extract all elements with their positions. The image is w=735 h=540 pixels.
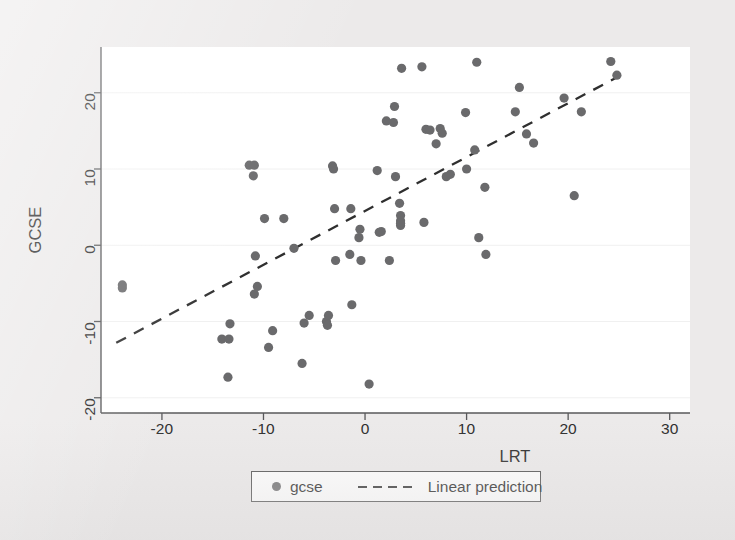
y-tick-label: 20 [81, 93, 99, 110]
axis-lines [101, 47, 690, 413]
y-tick-label: 0 [81, 245, 99, 254]
y-tick-label: -10 [81, 322, 99, 345]
y-tick-label: -20 [81, 398, 99, 421]
legend-dashed-line-icon [357, 482, 419, 492]
legend-box: gcse Linear prediction [251, 471, 541, 502]
x-tick-label: 30 [661, 420, 678, 438]
legend-label-linear-prediction: Linear prediction [428, 478, 543, 496]
tick-marks [94, 93, 670, 420]
x-tick-label: 0 [361, 420, 370, 438]
legend-entry-gcse: gcse [272, 478, 323, 496]
x-tick-label: 10 [458, 420, 475, 438]
y-axis-title: GCSE [26, 207, 45, 254]
legend-label-gcse: gcse [290, 478, 323, 496]
legend-dot-icon [272, 482, 281, 491]
x-axis-title: LRT [0, 447, 735, 466]
scatter-plot-figure: -20-100102030 20100-10-20 LRT GCSE gcse … [0, 0, 735, 540]
legend-entry-linear-prediction: Linear prediction [357, 478, 543, 496]
y-tick-label: 10 [81, 169, 99, 186]
x-tick-label: -20 [151, 420, 174, 438]
x-axis-title-text: LRT [500, 447, 531, 465]
x-tick-label: -10 [252, 420, 275, 438]
x-tick-label: 20 [559, 420, 576, 438]
